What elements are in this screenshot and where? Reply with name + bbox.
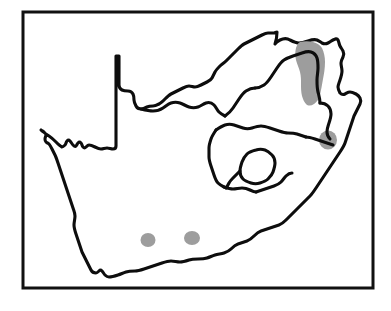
- map-figure: [0, 0, 391, 311]
- distribution-patch-southern-cape: [184, 231, 200, 245]
- figure-caption: [0, 291, 391, 311]
- distribution-patch-western-cape: [141, 233, 156, 247]
- map-canvas: [0, 0, 391, 311]
